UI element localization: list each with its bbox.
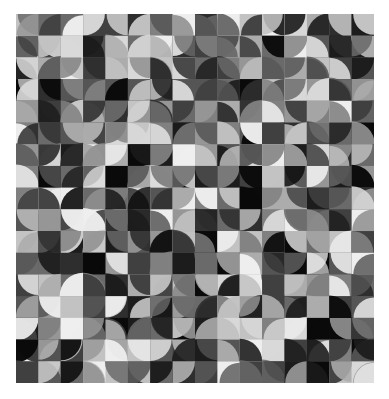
quarter-circle-mosaic bbox=[16, 14, 374, 383]
mosaic-artwork bbox=[16, 14, 374, 383]
